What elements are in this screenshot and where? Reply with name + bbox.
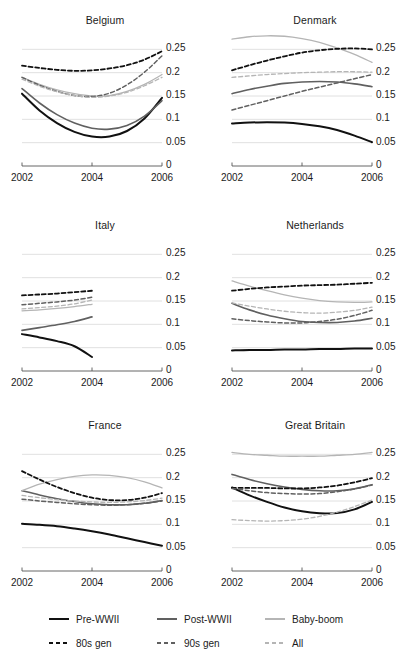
panel-netherlands: Netherlands0.250.20.150.10.0502002200420… xyxy=(210,205,420,405)
legend-line-icon xyxy=(264,614,286,624)
x-tick-label: 2002 xyxy=(11,172,33,183)
series-line-pre-wwii xyxy=(22,334,92,357)
y-tick-label: 0 xyxy=(376,564,382,575)
plot-area xyxy=(232,245,372,371)
x-tick-label: 2004 xyxy=(291,577,313,588)
y-tick-label: 0.2 xyxy=(376,271,390,282)
y-tick-label: 0.05 xyxy=(166,341,185,352)
y-axis-labels: 0.250.20.150.10.050 xyxy=(376,238,420,378)
x-axis-labels: 200220042006 xyxy=(0,172,210,190)
legend-row: Pre-WWIIPost-WWIIBaby-boom xyxy=(0,608,420,630)
plot-area xyxy=(232,445,372,571)
series-line-90s-gen xyxy=(232,75,372,110)
y-tick-label: 0 xyxy=(166,564,172,575)
y-tick-label: 0.1 xyxy=(376,112,390,123)
y-tick-label: 0.1 xyxy=(376,517,390,528)
series-line-post-wwii xyxy=(22,89,162,130)
x-axis xyxy=(232,368,372,372)
y-tick-label: 0.1 xyxy=(166,517,180,528)
x-axis-labels: 200220042006 xyxy=(210,577,420,595)
y-tick-label: 0.1 xyxy=(166,317,180,328)
chart-legend: Pre-WWIIPost-WWIIBaby-boom80s gen90s gen… xyxy=(0,608,420,658)
legend-line-icon xyxy=(156,638,178,648)
y-axis-labels: 0.250.20.150.10.050 xyxy=(376,33,420,173)
x-axis xyxy=(22,368,162,372)
series-line-pre-wwii xyxy=(22,524,162,546)
y-axis-labels: 0.250.20.150.10.050 xyxy=(166,438,210,578)
panel-title: Netherlands xyxy=(210,219,420,231)
panel-france: France0.250.20.150.10.050200220042006 xyxy=(0,405,210,605)
series-line-baby-boom xyxy=(22,75,162,97)
x-tick-label: 2006 xyxy=(361,377,383,388)
y-tick-label: 0.1 xyxy=(166,112,180,123)
x-axis xyxy=(232,163,372,167)
y-tick-label: 0.25 xyxy=(166,42,185,53)
x-tick-label: 2002 xyxy=(221,172,243,183)
plot-area xyxy=(22,445,162,571)
y-tick-label: 0.2 xyxy=(376,471,390,482)
legend-line-icon xyxy=(48,614,70,624)
series-line-pre-wwii xyxy=(22,94,162,138)
y-tick-label: 0.25 xyxy=(376,447,395,458)
y-tick-label: 0 xyxy=(166,364,172,375)
x-tick-label: 2006 xyxy=(151,172,173,183)
panel-belgium: Belgium0.250.20.150.10.050200220042006 xyxy=(0,0,210,200)
y-tick-label: 0.05 xyxy=(166,136,185,147)
legend-line-icon xyxy=(48,638,70,648)
x-tick-label: 2002 xyxy=(11,377,33,388)
y-tick-label: 0.15 xyxy=(166,294,185,305)
y-tick-label: 0.15 xyxy=(376,494,395,505)
y-axis-labels: 0.250.20.150.10.050 xyxy=(376,438,420,578)
series-line-80s-gen xyxy=(22,291,92,296)
series-line-baby-boom xyxy=(22,475,162,491)
series-line-pre-wwii xyxy=(232,122,372,142)
y-tick-label: 0.25 xyxy=(166,247,185,258)
x-tick-label: 2004 xyxy=(81,577,103,588)
y-tick-label: 0.2 xyxy=(166,271,180,282)
y-tick-label: 0.05 xyxy=(376,136,395,147)
panel-title: France xyxy=(0,419,210,431)
legend-line-icon xyxy=(264,638,286,648)
series-line-post-wwii xyxy=(22,317,92,331)
y-tick-label: 0.2 xyxy=(166,471,180,482)
gridlines xyxy=(232,454,372,547)
panel-title: Great Britain xyxy=(210,419,420,431)
legend-label: Baby-boom xyxy=(292,614,343,625)
legend-label: Pre-WWII xyxy=(76,614,119,625)
x-tick-label: 2004 xyxy=(81,172,103,183)
panel-title: Denmark xyxy=(210,14,420,26)
legend-label: 90s gen xyxy=(184,638,220,649)
y-tick-label: 0.05 xyxy=(376,341,395,352)
gridlines xyxy=(22,254,162,347)
x-tick-label: 2002 xyxy=(11,577,33,588)
x-axis xyxy=(232,568,372,572)
legend-row: 80s gen90s genAll xyxy=(0,632,420,654)
y-tick-label: 0.15 xyxy=(166,89,185,100)
panel-denmark: Denmark0.250.20.150.10.050200220042006 xyxy=(210,0,420,200)
y-tick-label: 0.15 xyxy=(376,294,395,305)
legend-item-80s-gen: 80s gen xyxy=(48,632,156,654)
legend-item-90s-gen: 90s gen xyxy=(156,632,264,654)
y-tick-label: 0 xyxy=(166,159,172,170)
y-tick-label: 0.2 xyxy=(166,66,180,77)
y-tick-label: 0.15 xyxy=(376,89,395,100)
plot-area xyxy=(22,245,162,371)
legend-label: All xyxy=(292,638,303,649)
gridlines xyxy=(232,254,372,347)
y-tick-label: 0.1 xyxy=(376,317,390,328)
legend-item-pre-wwii: Pre-WWII xyxy=(48,608,156,630)
panel-title: Italy xyxy=(0,219,210,231)
panel-title: Belgium xyxy=(0,14,210,26)
series-line-all xyxy=(22,77,162,97)
series-line-80s-gen xyxy=(22,51,162,71)
plot-area xyxy=(232,40,372,166)
x-axis-labels: 200220042006 xyxy=(0,377,210,395)
legend-item-all: All xyxy=(264,632,372,654)
legend-label: 80s gen xyxy=(76,638,112,649)
x-axis-labels: 200220042006 xyxy=(210,172,420,190)
y-tick-label: 0.25 xyxy=(376,247,395,258)
legend-line-icon xyxy=(156,614,178,624)
x-tick-label: 2002 xyxy=(221,577,243,588)
series-line-90s-gen xyxy=(22,56,162,97)
x-tick-label: 2006 xyxy=(361,172,383,183)
